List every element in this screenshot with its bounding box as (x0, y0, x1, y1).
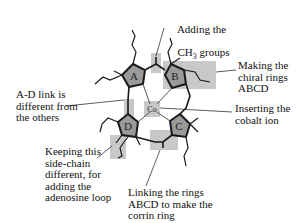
sidechain-highlight (110, 135, 126, 159)
cobalt-label: Co (147, 105, 156, 114)
ch3-annotation: Adding the CH3 groups (172, 12, 229, 62)
ad-link-annotation: A-D link is different from the others (16, 89, 78, 124)
linking-annotation: Linking the rings ABCD to make the corri… (128, 187, 213, 222)
svg-text:C: C (175, 120, 182, 132)
sidechain-annotation: Keeping this side-chain different, for a… (45, 146, 111, 204)
chiral-annotation: Making the chiral rings ABCD (238, 60, 288, 95)
corrin-diagram: A B C D Co (0, 0, 296, 223)
svg-text:A: A (130, 70, 138, 82)
cobalt-annotation: Inserting the cobalt ion (235, 103, 290, 126)
svg-text:B: B (171, 70, 178, 82)
svg-text:D: D (124, 120, 132, 132)
